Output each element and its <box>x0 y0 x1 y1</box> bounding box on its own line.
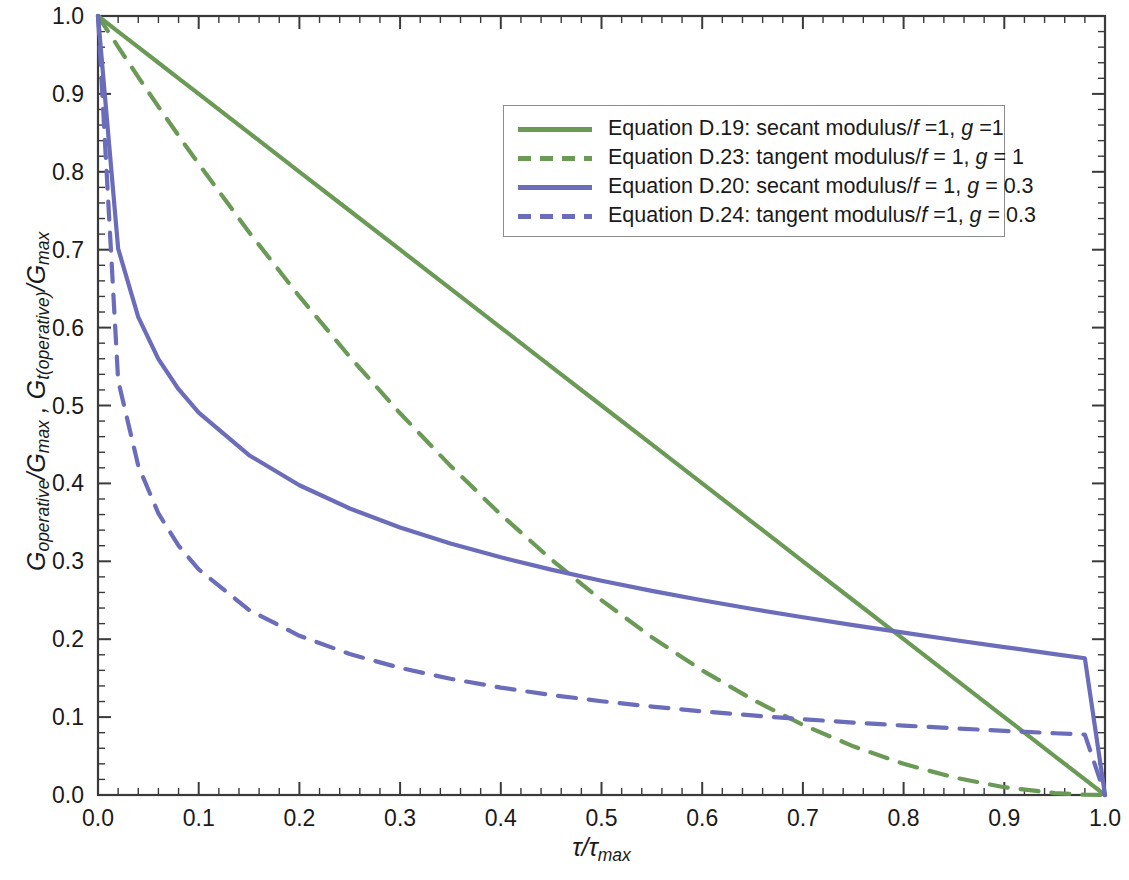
legend-swatch-icon <box>518 152 592 164</box>
legend-item[interactable]: Equation D.23: tangent modulus/f = 1, g … <box>504 144 1004 172</box>
y-tick-label: 0.6 <box>52 315 84 341</box>
x-tick-label: 0.6 <box>686 805 718 831</box>
y-tick-label: 1.0 <box>52 3 84 29</box>
legend-swatch-icon <box>518 123 592 135</box>
y-axis-label: Goperative/Gmax , Gt(operative)/Gmax <box>22 101 55 701</box>
x-tick-label: 0.1 <box>183 805 215 831</box>
x-tick-label: 0.3 <box>384 805 416 831</box>
legend-item-label: Equation D.24: tangent modulus/f =1, g =… <box>608 205 1036 227</box>
y-axis-label-text: Goperative/Gmax , Gt(operative)/Gmax <box>22 232 50 571</box>
legend-item[interactable]: Equation D.19: secant modulus/f =1, g =1 <box>504 115 1004 143</box>
x-tick-label: 0.5 <box>586 805 618 831</box>
y-tick-label: 0.5 <box>52 393 84 419</box>
y-tick-label: 0.2 <box>52 626 84 652</box>
chart-figure: 0.00.10.20.30.40.50.60.70.80.91.00.00.10… <box>0 0 1129 880</box>
x-tick-label: 0.8 <box>888 805 920 831</box>
x-tick-label: 1.0 <box>1089 805 1121 831</box>
y-tick-label: 0.7 <box>52 237 84 263</box>
x-tick-label: 0.2 <box>283 805 315 831</box>
x-tick-label: 0.0 <box>82 805 114 831</box>
y-tick-label: 0.9 <box>52 81 84 107</box>
legend-item-label: Equation D.19: secant modulus/f =1, g =1 <box>608 118 1004 140</box>
x-tick-label: 0.4 <box>485 805 517 831</box>
legend-swatch-icon <box>518 210 592 222</box>
y-tick-label: 0.0 <box>52 782 84 808</box>
y-tick-label: 0.4 <box>52 470 84 496</box>
chart-legend: Equation D.19: secant modulus/f =1, g =1… <box>503 105 1005 237</box>
y-tick-label: 0.3 <box>52 548 84 574</box>
y-tick-label: 0.8 <box>52 159 84 185</box>
x-tick-label: 0.9 <box>988 805 1020 831</box>
legend-item-label: Equation D.20: secant modulus/f = 1, g =… <box>608 176 1034 198</box>
x-axis-label-text: τ/τmax <box>572 833 631 861</box>
x-tick-label: 0.7 <box>787 805 819 831</box>
legend-item[interactable]: Equation D.20: secant modulus/f = 1, g =… <box>504 173 1004 201</box>
y-tick-label: 0.1 <box>52 704 84 730</box>
x-axis-label: τ/τmax <box>98 833 1105 866</box>
legend-swatch-icon <box>518 181 592 193</box>
legend-item-label: Equation D.23: tangent modulus/f = 1, g … <box>608 147 1024 169</box>
legend-item[interactable]: Equation D.24: tangent modulus/f =1, g =… <box>504 202 1004 230</box>
